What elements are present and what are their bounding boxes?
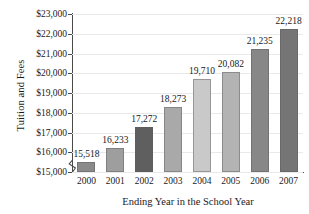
y-tick-mark xyxy=(68,14,72,15)
x-tick-label: 2007 xyxy=(279,176,298,186)
y-tick-label: $16,000 xyxy=(36,147,67,157)
y-tick-label: $21,000 xyxy=(36,49,67,59)
bar-value-label: 22,218 xyxy=(276,16,302,26)
x-tick-label: 2002 xyxy=(135,176,154,186)
bar xyxy=(193,79,211,172)
bar-value-label: 18,273 xyxy=(160,94,186,104)
x-tick-label: 2004 xyxy=(192,176,211,186)
bar xyxy=(222,72,240,172)
y-tick-label: $15,000 xyxy=(36,167,67,177)
y-tick-mark xyxy=(68,34,72,35)
y-axis-title: Tuition and Fees xyxy=(15,26,26,166)
y-tick-mark xyxy=(68,73,72,74)
y-tick-mark xyxy=(68,113,72,114)
y-tick-label: $20,000 xyxy=(36,68,67,78)
bar-value-label: 20,082 xyxy=(218,59,244,69)
gridline xyxy=(72,172,303,173)
y-tick-label: $19,000 xyxy=(36,88,67,98)
x-axis-title: Ending Year in the School Year xyxy=(72,196,304,207)
x-tick-label: 2006 xyxy=(250,176,269,186)
y-tick-mark xyxy=(68,152,72,153)
bar-value-label: 15,518 xyxy=(73,149,99,159)
x-tick-label: 2001 xyxy=(106,176,125,186)
x-tick-label: 2003 xyxy=(164,176,183,186)
bar xyxy=(135,127,153,172)
y-tick-label: $18,000 xyxy=(36,108,67,118)
y-tick-mark xyxy=(68,54,72,55)
bar-value-label: 16,233 xyxy=(102,135,128,145)
bar-chart-figure: Tuition and Fees $15,000$16,000$17,000$1… xyxy=(0,0,309,214)
y-tick-mark xyxy=(68,172,72,173)
bar-value-label: 19,710 xyxy=(189,66,215,76)
x-tick-label: 2000 xyxy=(77,176,96,186)
gridline xyxy=(72,34,303,35)
bar-value-label: 21,235 xyxy=(247,36,273,46)
bar xyxy=(280,29,298,172)
x-tick-label: 2005 xyxy=(221,176,240,186)
bar xyxy=(77,162,95,172)
bar xyxy=(164,107,182,172)
plot-area: $15,000$16,000$17,000$18,000$19,000$20,0… xyxy=(72,14,303,172)
bar xyxy=(251,49,269,172)
y-tick-mark xyxy=(68,93,72,94)
y-tick-label: $22,000 xyxy=(36,29,67,39)
y-tick-label: $23,000 xyxy=(36,9,67,19)
bar xyxy=(106,148,124,172)
gridline xyxy=(72,14,303,15)
y-tick-mark xyxy=(68,133,72,134)
y-tick-label: $17,000 xyxy=(36,128,67,138)
bar-value-label: 17,272 xyxy=(131,114,157,124)
